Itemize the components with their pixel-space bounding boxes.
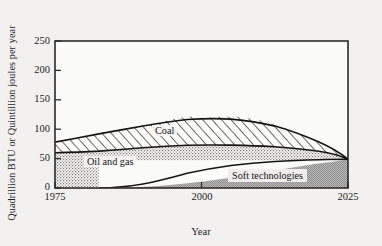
series-label-coal: Coal [152, 125, 177, 136]
series-label-oil-and-gas: Oil and gas [84, 156, 136, 167]
series-label-soft-technologies: Soft technologies [228, 169, 307, 182]
chart-plot-svg [0, 0, 382, 246]
chart-figure: Quadrillion BTU or Quintillion joules pe… [0, 0, 382, 246]
